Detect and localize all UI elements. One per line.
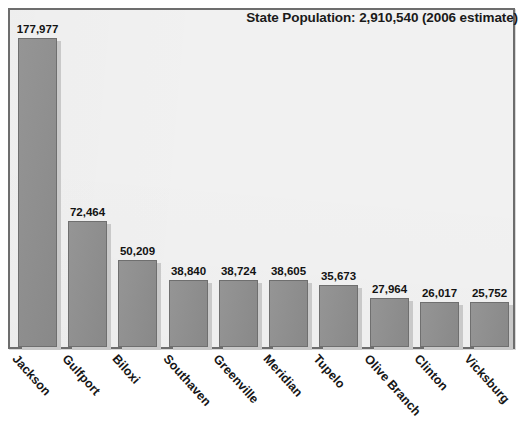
bar-value-label: 25,752 (472, 287, 507, 299)
bar-clinton: 26,017 (420, 302, 459, 347)
bars-layer: 177,97772,46450,20938,84038,72438,60535,… (10, 10, 513, 347)
bar-rect (370, 298, 409, 347)
bar-rect (319, 285, 358, 347)
bar-rect (18, 38, 57, 347)
tick-label-jackson: Jackson (10, 352, 54, 399)
bar-value-label: 26,017 (422, 287, 457, 299)
tick-label-meridian: Meridian (261, 352, 306, 400)
bar-southaven: 38,840 (169, 280, 208, 347)
bar-value-label: 38,724 (221, 265, 256, 277)
bar-value-label: 177,977 (17, 23, 59, 35)
population-bar-chart: State Population: 2,910,540 (2006 estima… (0, 0, 530, 424)
bar-rect (219, 280, 258, 347)
bar-tupelo: 35,673 (319, 285, 358, 347)
bar-meridian: 38,605 (269, 280, 308, 347)
bar-value-label: 50,209 (120, 245, 155, 257)
tick-label-vicksburg: Vicksburg (462, 352, 513, 406)
bar-value-label: 38,840 (171, 265, 206, 277)
tick-label-biloxi: Biloxi (110, 352, 143, 387)
bar-value-label: 27,964 (372, 283, 407, 295)
bar-rect (420, 302, 459, 347)
bar-rect (169, 280, 208, 347)
tick-label-gulfport: Gulfport (60, 352, 103, 398)
bar-value-label: 38,605 (271, 265, 306, 277)
tick-label-clinton: Clinton (412, 352, 451, 393)
bar-value-label: 35,673 (321, 270, 356, 282)
bar-jackson: 177,977 (18, 38, 57, 347)
tick-label-greenville: Greenville (211, 352, 262, 406)
bar-rect (269, 280, 308, 347)
bar-rect (68, 221, 107, 347)
category-axis-labels: JacksonGulfportBiloxiSouthavenGreenville… (10, 352, 513, 424)
bar-value-label: 72,464 (70, 206, 105, 218)
bar-biloxi: 50,209 (118, 260, 157, 347)
bar-vicksburg: 25,752 (470, 302, 509, 347)
bar-greenville: 38,724 (219, 280, 258, 347)
bar-olive-branch: 27,964 (370, 298, 409, 347)
bar-rect (470, 302, 509, 347)
bar-rect (118, 260, 157, 347)
tick-label-tupelo: Tupelo (311, 352, 348, 391)
bar-gulfport: 72,464 (68, 221, 107, 347)
tick-label-southaven: Southaven (161, 352, 214, 409)
